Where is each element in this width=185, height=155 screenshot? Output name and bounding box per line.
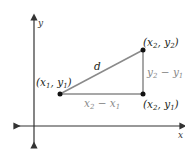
x-axis-label: x (178, 130, 183, 140)
distance-diagram: y x (x1, y1) (x2, y2) (x2, y1) d x2 − x1… (0, 0, 185, 155)
label-x2-y1: (x2, y1) (143, 98, 179, 112)
vertical-leg-label: y2 − y1 (146, 66, 183, 80)
label-x2-y2: (x2, y2) (143, 36, 179, 50)
y-axis-label: y (37, 18, 44, 28)
point-x2-y1 (141, 92, 146, 97)
label-x1-y1: (x1, y1) (36, 76, 72, 90)
point-x2-y2 (141, 48, 146, 53)
hypotenuse-label: d (94, 60, 101, 72)
hypotenuse-segment (60, 50, 143, 94)
horizontal-leg-label: x2 − x1 (84, 97, 120, 111)
point-x1-y1 (58, 92, 63, 97)
